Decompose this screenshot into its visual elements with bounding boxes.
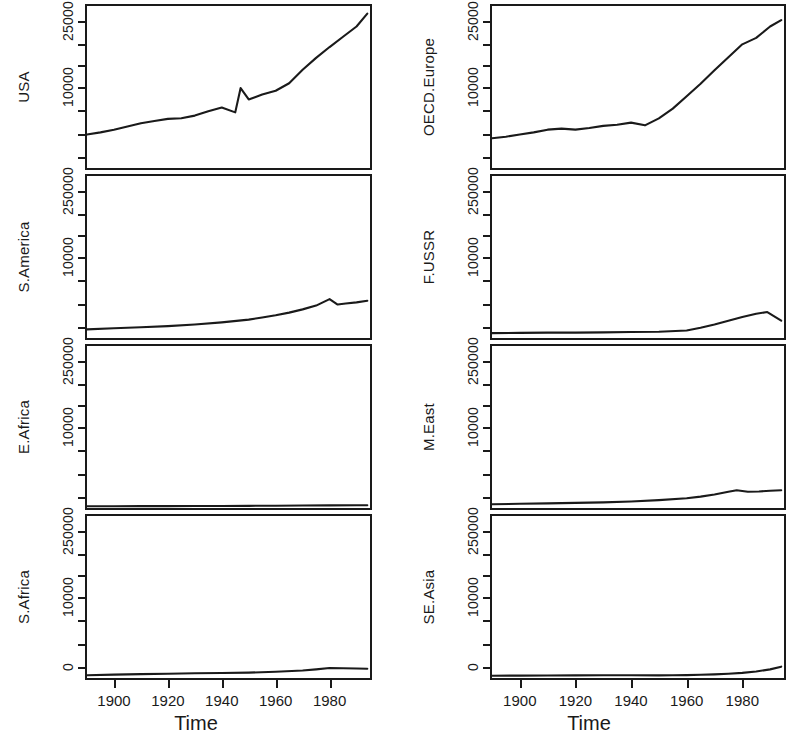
y-tick-mark [483, 531, 490, 533]
x-tick-mark [575, 680, 577, 688]
y-tick-mark [483, 575, 490, 577]
y-tick-mark [483, 667, 490, 669]
y-tick-mark [78, 667, 85, 669]
x-tick-mark [114, 680, 116, 688]
y-tick-mark [78, 620, 85, 622]
y-tick-mark [78, 597, 85, 599]
y-tick-mark [78, 554, 85, 556]
x-tick-mark [168, 680, 170, 688]
y-tick-mark [483, 644, 490, 646]
panel-s-africa: 250000 10000 0 S.Africa 1900192019401960… [0, 0, 392, 690]
x-tick-label: 1900 [490, 692, 550, 709]
y-tick-mark [78, 531, 85, 533]
x-tick-label: 1920 [545, 692, 605, 709]
x-tick-mark [687, 680, 689, 688]
y-tick-mark [78, 644, 85, 646]
panel-se-asia-ytick-1: 10000 [464, 561, 482, 633]
x-tick-label: 1960 [246, 692, 306, 709]
x-tick-mark [631, 680, 633, 688]
y-tick-mark [78, 575, 85, 577]
x-tick-label: 1920 [138, 692, 198, 709]
x-tick-mark [330, 680, 332, 688]
panel-s-africa-ytick-1: 10000 [59, 561, 77, 633]
panel-s-africa-ytick-zero: 0 [59, 631, 77, 703]
x-tick-mark [520, 680, 522, 688]
x-tick-label: 1940 [601, 692, 661, 709]
x-tick-label: 1980 [300, 692, 360, 709]
panel-s-africa-ytick-0: 250000 [59, 495, 77, 567]
y-tick-mark [483, 597, 490, 599]
x-tick-label: 1980 [712, 692, 772, 709]
x-tick-label: 1940 [192, 692, 252, 709]
x-tick-mark [276, 680, 278, 688]
panel-s-africa-series [87, 516, 370, 678]
panel-se-asia-series [492, 516, 784, 678]
panel-se-asia-ytick-zero: 0 [464, 631, 482, 703]
y-tick-mark [483, 620, 490, 622]
x-tick-mark [742, 680, 744, 688]
y-tick-mark [483, 554, 490, 556]
panel-se-asia-ytick-0: 250000 [464, 495, 482, 567]
x-tick-label: 1960 [657, 692, 717, 709]
x-axis-title-right: Time [393, 712, 785, 735]
x-tick-label: 1900 [84, 692, 144, 709]
x-axis-title-left: Time [0, 712, 392, 735]
panel-se-asia-label: SE.Asia [419, 522, 439, 672]
panel-s-africa-label: S.Africa [14, 522, 34, 672]
x-tick-mark [222, 680, 224, 688]
panel-se-asia: 250000 10000 0 SE.Asia 19001920194019601… [393, 0, 785, 690]
